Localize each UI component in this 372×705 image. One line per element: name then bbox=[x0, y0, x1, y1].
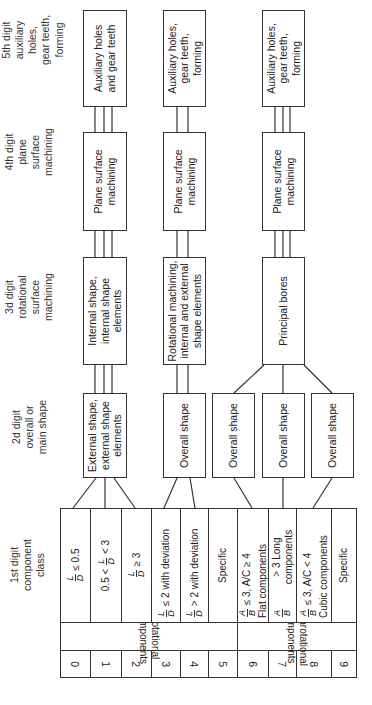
d5-box-auxiliary-holes-2: Auxiliary holes, gear teeth, forming bbox=[163, 10, 206, 107]
d2-box-overall-shape-rotational: Overall shape bbox=[163, 393, 206, 478]
d2-box-external-shape: External shape, external shape elements bbox=[83, 393, 127, 478]
d5-box-auxiliary-holes-3: Auxiliary holes, gear teeth, forming bbox=[262, 10, 305, 107]
d3-box-principal-bores: Principal bores bbox=[262, 257, 305, 365]
d2-box-overall-shape-cubic: Overall shape bbox=[311, 393, 354, 478]
d4-box-plane-surface-3: Plane surface machining bbox=[262, 132, 305, 231]
d2-box-overall-shape-flat: Overall shape bbox=[212, 393, 255, 478]
d2-box-overall-shape-long: Overall shape bbox=[262, 393, 305, 478]
d5-box-auxiliary-holes-1: Auxiliary holes and gear teeth bbox=[83, 10, 127, 107]
d3-box-internal-shape: Internal shape, internal shape elements bbox=[83, 257, 127, 365]
d4-box-plane-surface-1: Plane surface machining bbox=[83, 132, 127, 231]
d4-box-plane-surface-2: Plane surface machining bbox=[163, 132, 206, 231]
d3-box-rotational-machining: Rotational machining, internal and exter… bbox=[163, 257, 206, 365]
opitz-classification-diagram: 1st digit component class 2d digit overa… bbox=[0, 0, 372, 705]
